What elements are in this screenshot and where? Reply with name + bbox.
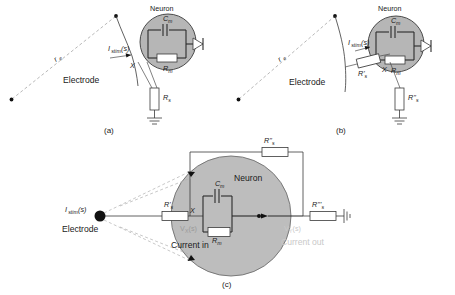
panel-b-distance-subscript: e — [281, 55, 287, 62]
panel-c-series-res-3-symbol: R''' — [312, 200, 322, 209]
panel-b-stim-subscript: stim — [351, 42, 361, 48]
panel-b-stim-symbol: I — [348, 38, 350, 47]
panel-b-cap-subscript: m — [396, 20, 401, 26]
panel-c: Neuron R'' s R' s X V X (s) — [62, 136, 350, 289]
panel-a-series-resistor — [150, 88, 159, 110]
panel-b-memres-subscript: m — [396, 70, 401, 76]
panel-c-electrode-label: Electrode — [62, 224, 99, 234]
panel-c-vy-label: V Y (s) — [284, 224, 301, 234]
panel-a-series-wire-left — [138, 62, 152, 88]
panel-a-memres-subscript: m — [168, 68, 173, 74]
panel-c-series-res-1-label: R' s — [164, 200, 173, 210]
panel-b-series-res-1-label: R' s — [358, 69, 367, 79]
panel-c-series-res-2-subscript: s — [272, 140, 275, 146]
panel-c-series-res-3-label: R''' s — [312, 200, 325, 210]
panel-b-source-arrow — [421, 40, 431, 52]
panel-b-series-resistor-1 — [356, 54, 380, 68]
panel-a-distance-line — [12, 16, 116, 99]
panel-c-vy-arg: (s) — [293, 224, 301, 233]
panel-c-stim-label: I stim (s) — [65, 205, 86, 215]
panel-a: r e Neuron — [10, 4, 203, 135]
panel-b-electrode-point — [237, 98, 241, 102]
panel-a-cap-subscript: m — [168, 18, 173, 24]
panel-c-neuron-label: Neuron — [234, 173, 262, 183]
panel-c-stim-subscript: stim — [68, 209, 78, 215]
panel-c-series-res-1-subscript: s — [170, 204, 173, 210]
panel-a-neuron-label: Neuron — [150, 4, 174, 13]
panel-c-series-resistor-2 — [262, 148, 288, 157]
panel-b-neuron-label: Neuron — [378, 4, 402, 13]
panel-a-electrode-point — [10, 98, 14, 102]
panel-a-stim-arg: (s) — [121, 44, 129, 53]
panel-b-membrane-resistor — [385, 56, 405, 64]
panel-b-series1-wire-in — [345, 64, 357, 67]
panel-b-series-resistor-2 — [395, 88, 404, 110]
panel-b-caption: (b) — [336, 126, 346, 135]
panel-b-tissue-boundary — [335, 16, 346, 92]
panel-c-series-res-3-subscript: s — [322, 204, 325, 210]
panel-a-series-res-label: R s — [163, 93, 171, 103]
panel-a-series-res-subscript: s — [168, 97, 171, 103]
panel-c-current-in-label: Current in — [171, 240, 209, 250]
electrode-neuron-circuit-figure: r e Neuron — [0, 0, 455, 295]
panel-b-series-res-1-subscript: s — [364, 73, 367, 79]
panel-b-electrode-label: Electrode — [289, 77, 326, 87]
panel-b-stim-label: I stim (s) — [348, 38, 369, 48]
panel-a-electrode-label: Electrode — [63, 75, 100, 85]
panel-a-stim-arrowhead — [126, 53, 131, 57]
panel-a-source-arrow — [193, 38, 203, 50]
panel-c-series-resistor-1 — [162, 212, 188, 221]
panel-c-membrane-node — [257, 214, 261, 218]
panel-c-electrode-point — [95, 211, 106, 222]
panel-b-distance-label: r e — [276, 52, 288, 64]
panel-a-stim-label: I stim (s) — [108, 44, 129, 54]
panel-a-stim-symbol: I — [108, 44, 110, 53]
panel-a-distance-label: r e — [52, 52, 64, 64]
panel-b: r e Neuron C m R m — [237, 4, 431, 135]
panel-a-caption: (a) — [104, 126, 114, 135]
panel-b-stim-arg: (s) — [361, 38, 369, 47]
panel-c-stim-symbol: I — [65, 205, 67, 214]
panel-a-ground-symbol — [147, 118, 162, 124]
panel-c-current-out-label: Current out — [281, 237, 325, 247]
panel-c-memres-subscript: m — [217, 240, 222, 246]
panel-c-stim-arg: (s) — [78, 205, 86, 214]
panel-c-ground-symbol — [344, 209, 350, 223]
panel-b-ground-symbol — [392, 118, 407, 124]
panel-c-caption: (c) — [222, 280, 232, 289]
panel-c-series-resistor-3 — [310, 212, 336, 221]
panel-a-membrane-resistor — [157, 54, 177, 62]
panel-a-stim-subscript: stim — [111, 48, 121, 54]
panel-c-vx-arg: (s) — [189, 224, 197, 233]
panel-c-series-res-2-label: R'' s — [264, 136, 275, 146]
panel-b-series-res-2-label: R'' s — [408, 93, 419, 103]
panel-c-vx-label: V X (s) — [180, 224, 197, 234]
panel-b-series-res-2-subscript: s — [416, 97, 419, 103]
panel-c-cap-subscript: m — [220, 183, 225, 189]
